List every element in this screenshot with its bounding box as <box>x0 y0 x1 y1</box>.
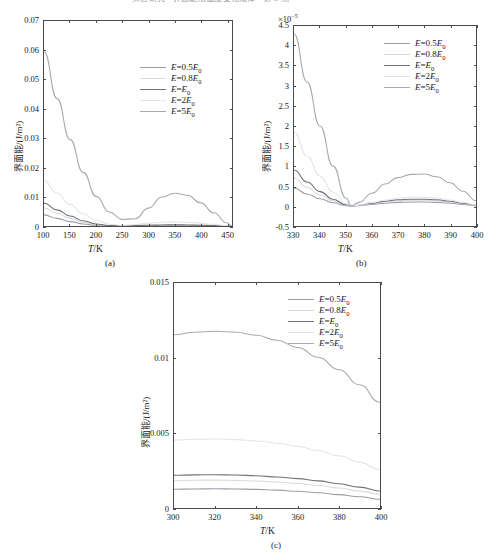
x-tick-a-4 <box>149 224 150 227</box>
y-tick-c-3 <box>378 282 381 283</box>
y-tick-label-b-1: 0 <box>255 202 289 212</box>
y-tick-b-9 <box>474 45 477 46</box>
x-tick-a-7 <box>228 20 229 23</box>
series-line-1 <box>174 480 380 494</box>
y-tick-label-a-7: 0.07 <box>5 15 39 25</box>
legend-swatch-3 <box>140 100 166 101</box>
y-tick-c-0 <box>378 509 381 510</box>
legend-swatch-4 <box>140 111 166 112</box>
y-tick-label-c-1: 0.005 <box>135 428 169 438</box>
legend-label-4: E=5E0 <box>415 82 439 94</box>
x-tick-c-1 <box>215 282 216 285</box>
x-tick-b-6 <box>451 224 452 227</box>
x-axis-title-b: T/K <box>338 244 353 254</box>
legend-item-4: E=5E0 <box>288 338 350 349</box>
y-tick-c-3 <box>173 282 176 283</box>
y-tick-c-2 <box>378 358 381 359</box>
x-axis-title-a: T/K <box>88 244 103 254</box>
y-tick-a-1 <box>43 197 46 198</box>
x-tick-a-3 <box>122 224 123 227</box>
legend-item-2: E=E0 <box>288 316 350 327</box>
x-tick-label-b-7: 400 <box>463 230 491 240</box>
y-tick-b-0 <box>474 227 477 228</box>
x-axis-unit-b: /K <box>343 244 353 254</box>
y-tick-label-a-6: 0.06 <box>5 45 39 55</box>
y-tick-a-7 <box>230 20 233 21</box>
x-tick-c-3 <box>298 282 299 285</box>
x-tick-label-b-5: 380 <box>410 230 438 240</box>
y-tick-label-c-0: 0 <box>135 504 169 514</box>
y-tick-a-2 <box>43 168 46 169</box>
x-tick-b-4 <box>398 25 399 28</box>
y-tick-label-b-2: 0.5 <box>255 182 289 192</box>
series-line-0 <box>174 489 380 499</box>
chart-panel-b: ×10−5 E=0.5E0E=0.8E0E=E0E=2E0E=5E0 界面能/(… <box>246 12 492 262</box>
y-tick-b-4 <box>474 146 477 147</box>
x-tick-label-a-4: 300 <box>135 230 163 240</box>
y-tick-label-a-2: 0.02 <box>5 163 39 173</box>
x-tick-b-5 <box>424 25 425 28</box>
x-tick-a-6 <box>201 224 202 227</box>
legend-swatch-1 <box>384 54 410 55</box>
x-tick-a-5 <box>175 224 176 227</box>
legend-item-2: E=E0 <box>140 84 202 95</box>
y-tick-c-1 <box>378 433 381 434</box>
x-tick-label-c-3: 360 <box>284 512 312 522</box>
legend-swatch-4 <box>288 343 314 344</box>
series-line-2 <box>44 203 232 226</box>
x-tick-a-7 <box>228 224 229 227</box>
legend-swatch-0 <box>384 43 410 44</box>
chart-panel-c: E=0.5E0E=0.8E0E=E0E=2E0E=5E0 界面能/(J/m²) … <box>105 268 395 555</box>
y-tick-a-6 <box>43 50 46 51</box>
y-tick-label-b-0: -0.5 <box>255 222 289 232</box>
series-line-2 <box>294 170 476 206</box>
legend-item-0: E=0.5E0 <box>140 62 202 73</box>
x-tick-b-7 <box>477 25 478 28</box>
x-tick-label-c-2: 340 <box>242 512 270 522</box>
y-tick-b-0 <box>293 227 296 228</box>
y-tick-label-b-6: 2.5 <box>255 101 289 111</box>
y-tick-b-7 <box>293 86 296 87</box>
x-axis-unit-c: /K <box>265 526 275 536</box>
caption-b: (b) <box>356 258 367 268</box>
x-tick-label-b-3: 360 <box>358 230 386 240</box>
y-tick-b-5 <box>474 126 477 127</box>
y-tick-b-2 <box>293 187 296 188</box>
y-tick-b-6 <box>293 106 296 107</box>
legend-swatch-4 <box>384 87 410 88</box>
x-tick-label-a-1: 150 <box>55 230 83 240</box>
figure-root: 实验研究 · 界面能随温度变化规律 · 第 3 期 E=0.5E0E=0.8E0… <box>0 0 492 555</box>
legend-item-1: E=0.8E0 <box>288 305 350 316</box>
legend-swatch-3 <box>384 76 410 77</box>
x-tick-c-4 <box>339 506 340 509</box>
x-tick-label-a-5: 350 <box>161 230 189 240</box>
x-tick-label-a-7: 450 <box>214 230 242 240</box>
y-tick-a-3 <box>43 138 46 139</box>
legend-swatch-2 <box>140 89 166 90</box>
legend-swatch-0 <box>288 299 314 300</box>
y-tick-b-8 <box>293 65 296 66</box>
legend-label-4: E=5E0 <box>171 106 195 118</box>
x-tick-b-2 <box>346 224 347 227</box>
legend-item-0: E=0.5E0 <box>384 38 446 49</box>
x-tick-label-c-1: 320 <box>201 512 229 522</box>
x-tick-label-b-2: 350 <box>332 230 360 240</box>
y-tick-a-3 <box>230 138 233 139</box>
y-tick-label-b-8: 3.5 <box>255 60 289 70</box>
x-axis-title-c: T/K <box>260 526 275 536</box>
caption-c: (c) <box>271 540 281 550</box>
legend-item-2: E=E0 <box>384 60 446 71</box>
legend-b: E=0.5E0E=0.8E0E=E0E=2E0E=5E0 <box>384 38 446 93</box>
x-tick-a-3 <box>122 20 123 23</box>
y-tick-label-a-1: 0.01 <box>5 192 39 202</box>
y-tick-label-a-4: 0.04 <box>5 104 39 114</box>
y-tick-b-2 <box>474 187 477 188</box>
y-tick-label-a-3: 0.03 <box>5 133 39 143</box>
x-tick-b-1 <box>319 224 320 227</box>
x-tick-a-1 <box>69 224 70 227</box>
y-tick-a-0 <box>43 227 46 228</box>
x-tick-b-2 <box>346 25 347 28</box>
caption-a: (a) <box>105 258 115 268</box>
plot-area-c <box>173 282 381 509</box>
x-tick-a-4 <box>149 20 150 23</box>
